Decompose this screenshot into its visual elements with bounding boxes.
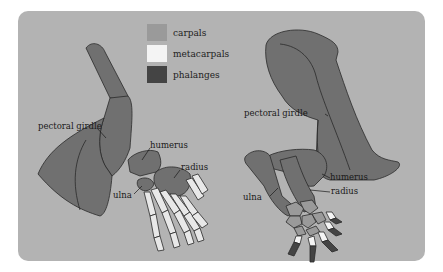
- legend-label: metacarpals: [173, 49, 229, 59]
- metacarpals-swatch: [147, 45, 167, 62]
- right-pectoral-girdle-label: pectoral girdle: [244, 108, 308, 118]
- legend-label: carpals: [173, 28, 206, 38]
- legend-item-carpals: carpals: [147, 24, 206, 41]
- left-radius-label: radius: [181, 162, 208, 172]
- right-humerus-label: humerus: [330, 172, 368, 182]
- right-ulna-label: ulna: [243, 192, 262, 202]
- limb-comparison-illustration: [0, 0, 443, 272]
- phalanges-swatch: [147, 66, 167, 83]
- left-ulna-label: ulna: [113, 190, 132, 200]
- legend-label: phalanges: [173, 70, 220, 80]
- left-pectoral-girdle-label: pectoral girdle: [38, 121, 102, 131]
- right-radius-label: radius: [331, 186, 358, 196]
- carpals-swatch: [147, 24, 167, 41]
- legend-item-phalanges: phalanges: [147, 66, 220, 83]
- left-humerus-label: humerus: [150, 140, 188, 150]
- left-ulna: [137, 178, 154, 191]
- right-carpals: [286, 200, 326, 236]
- legend-item-metacarpals: metacarpals: [147, 45, 229, 62]
